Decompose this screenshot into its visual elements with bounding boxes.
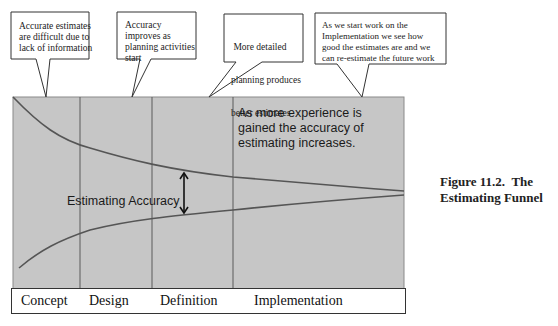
estimating-accuracy-label: Estimating Accuracy bbox=[67, 194, 180, 208]
callout-text-4: As we start work on the Implementation w… bbox=[322, 20, 434, 64]
phase-definition: Definition bbox=[160, 293, 218, 309]
phase-design: Design bbox=[89, 293, 129, 309]
phase-bar: Concept Design Definition Implementation bbox=[11, 288, 406, 314]
experience-note: As more experience is gained the accurac… bbox=[238, 106, 364, 151]
phase-implementation: Implementation bbox=[254, 293, 343, 309]
figure-caption: Figure 11.2. The Estimating Funnel bbox=[440, 174, 543, 206]
phase-concept: Concept bbox=[21, 293, 68, 309]
callout-text-2: Accuracy improves as planning activities… bbox=[125, 20, 195, 64]
callout-text-1: Accurate estimates are difficult due to … bbox=[19, 21, 92, 54]
